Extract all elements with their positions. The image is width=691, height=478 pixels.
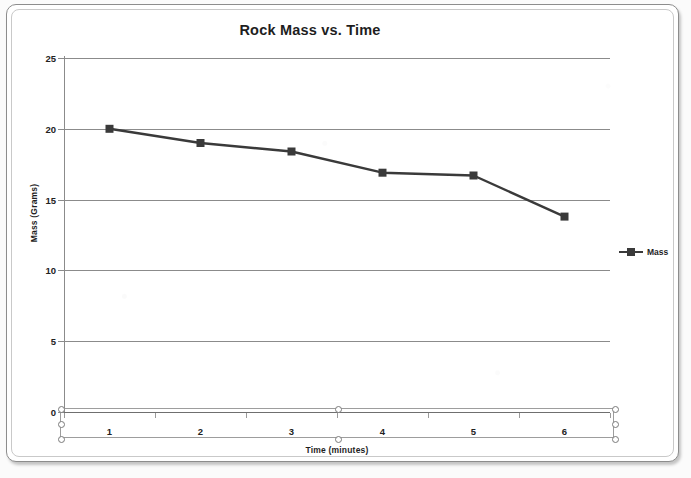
- y-tick-mark-5: [58, 341, 64, 342]
- chart-container[interactable]: Rock Mass vs. Time 2520151050 Mass (Gram…: [0, 0, 691, 478]
- data-point-5[interactable]: [470, 172, 478, 180]
- y-tick-mark-15: [58, 200, 64, 201]
- y-tick-mark-10: [58, 270, 64, 271]
- legend-label-mass: Mass: [647, 247, 668, 257]
- series-line-mass[interactable]: [110, 129, 565, 217]
- data-series-layer: [0, 0, 691, 478]
- y-tick-mark-20: [58, 129, 64, 130]
- data-point-6[interactable]: [561, 213, 569, 221]
- data-point-2[interactable]: [197, 139, 205, 147]
- y-tick-mark-0: [58, 412, 64, 413]
- data-point-1[interactable]: [106, 125, 114, 133]
- data-point-3[interactable]: [288, 148, 296, 156]
- y-tick-mark-25: [58, 58, 64, 59]
- line-square-marker-icon: [618, 247, 644, 257]
- legend[interactable]: Mass: [618, 247, 668, 257]
- data-point-4[interactable]: [379, 169, 387, 177]
